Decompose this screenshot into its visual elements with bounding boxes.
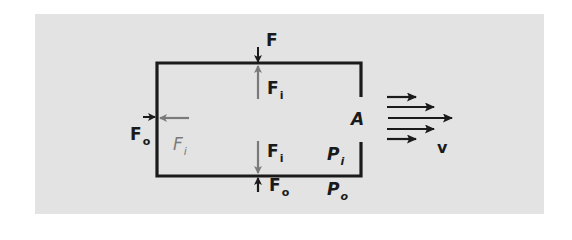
bottom-external-force-label: Fo: [269, 177, 289, 194]
top-external-force-label: F: [266, 32, 278, 49]
left-internal-force-label: Fi: [173, 136, 187, 153]
left-external-force-label: Fo: [130, 126, 150, 143]
inside-pressure-label: Pi: [327, 146, 344, 163]
outside-pressure-label: Po: [327, 181, 348, 198]
flow-arrows: [387, 97, 452, 139]
velocity-label: v: [437, 140, 447, 156]
top-internal-force-label: Fi: [267, 80, 283, 97]
bottom-internal-force-label: Fi: [267, 143, 283, 160]
opening-area-label: A: [351, 111, 364, 128]
